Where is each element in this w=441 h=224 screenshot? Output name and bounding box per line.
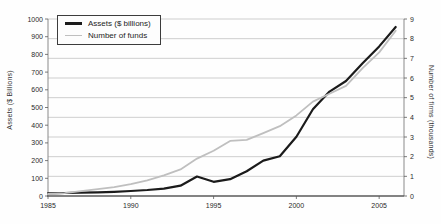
left-axis-tick-label: 200 [31, 157, 43, 164]
right-axis-tick-label: 2 [410, 153, 414, 160]
left-axis-tick-label: 800 [31, 51, 43, 58]
right-axis-tick-label: 1 [410, 173, 414, 180]
left-axis-tick-label: 300 [31, 139, 43, 146]
left-axis-tick-label: 1000 [27, 16, 43, 23]
right-axis-title: Number of firms (thousands) [428, 65, 435, 159]
x-axis-tick-label: 1990 [123, 202, 139, 209]
right-axis-tick-label: 3 [410, 134, 414, 141]
left-axis-tick-label: 700 [31, 69, 43, 76]
left-axis-tick-label: 900 [31, 33, 43, 40]
left-axis-tick-label: 0 [39, 193, 43, 200]
legend-item-assets: Assets ($ billions) [65, 19, 151, 28]
x-axis-tick-label: 2005 [371, 202, 387, 209]
x-axis-tick-label: 1995 [206, 202, 222, 209]
right-axis-tick-label: 0 [410, 193, 414, 200]
right-axis-tick-label: 7 [410, 55, 414, 62]
right-axis-tick-label: 5 [410, 94, 414, 101]
legend: Assets ($ billions) Number of funds [57, 15, 161, 45]
assets-line-sample [65, 22, 82, 24]
axis-frame [47, 19, 404, 196]
funds-line [48, 31, 396, 194]
x-axis-tick-label: 1985 [40, 202, 56, 209]
funds-line-sample [65, 35, 82, 37]
left-axis-tick-label: 400 [31, 122, 43, 129]
tick-marks [45, 19, 407, 199]
right-axis-tick-label: 6 [410, 75, 414, 82]
x-axis-tick-label: 2000 [289, 202, 305, 209]
left-axis-title: Assets ($ Billions) [6, 70, 13, 129]
legend-label-assets: Assets ($ billions) [88, 19, 151, 28]
legend-label-funds: Number of funds [88, 31, 147, 40]
right-axis-tick-label: 9 [410, 16, 414, 23]
left-axis-tick-label: 600 [31, 86, 43, 93]
legend-item-funds: Number of funds [65, 31, 151, 40]
left-axis-tick-label: 500 [31, 104, 43, 111]
assets-line [48, 27, 396, 193]
right-axis-tick-label: 8 [410, 35, 414, 42]
left-axis-tick-label: 100 [31, 175, 43, 182]
hedge-fund-growth-figure: 0100200300400500600700800900100001234567… [0, 0, 441, 224]
right-axis-tick-label: 4 [410, 114, 414, 121]
